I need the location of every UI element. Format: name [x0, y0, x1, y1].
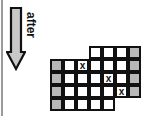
grid-cell-gray — [128, 46, 141, 59]
grid-cell — [115, 59, 128, 72]
grid-cell — [102, 85, 115, 98]
grid-cell — [115, 72, 128, 85]
grid-cell-marked: x — [102, 72, 115, 85]
grid-cell — [63, 98, 76, 111]
after-text: after — [24, 12, 38, 38]
grid-cell — [89, 98, 102, 111]
down-arrow-icon — [6, 6, 26, 72]
grid-cell-gray — [50, 85, 63, 98]
grid-cell — [63, 72, 76, 85]
grid-cell — [89, 72, 102, 85]
grid-cell-marked: x — [115, 85, 128, 98]
grid-cell — [76, 85, 89, 98]
left-border-line — [1, 0, 3, 116]
grid-cell-gray — [50, 98, 63, 111]
grid-cell-marked: x — [76, 59, 89, 72]
grid-cell — [102, 59, 115, 72]
grid-cell-gray — [128, 72, 141, 85]
grid-cell — [89, 85, 102, 98]
grid-cell — [89, 46, 102, 59]
grid-cell — [115, 46, 128, 59]
grid-cell-gray — [128, 85, 141, 98]
grid-cell — [76, 72, 89, 85]
after-label: after — [24, 8, 38, 42]
grid-cell — [63, 59, 76, 72]
grid-cell-gray — [128, 59, 141, 72]
grid-cell — [102, 98, 115, 111]
grid-cell-gray — [50, 72, 63, 85]
grid-cell — [89, 59, 102, 72]
grid-cell — [63, 85, 76, 98]
grid-cell — [102, 46, 115, 59]
grid-cell — [76, 98, 89, 111]
grid-cell-gray — [50, 59, 63, 72]
